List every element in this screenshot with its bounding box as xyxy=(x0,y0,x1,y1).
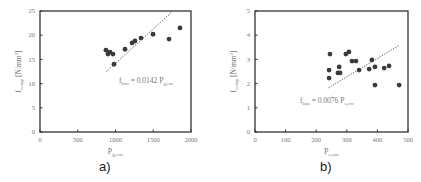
data-point xyxy=(387,64,392,69)
y-tick-label: 20 xyxy=(29,31,36,38)
data-point xyxy=(139,36,144,41)
data-point xyxy=(111,52,116,57)
data-point xyxy=(337,65,342,70)
y-tick-label: 0 xyxy=(247,128,250,135)
y-tick-label: 4 xyxy=(247,31,251,38)
data-point xyxy=(328,52,333,57)
data-point xyxy=(354,59,359,64)
data-point xyxy=(327,68,332,73)
data-point xyxy=(347,49,352,54)
data-point xyxy=(327,76,332,81)
panel-caption-b: b) xyxy=(320,159,332,174)
data-point xyxy=(123,47,128,52)
data-point xyxy=(367,67,372,72)
x-tick-label: 0 xyxy=(38,136,41,143)
data-point xyxy=(106,52,111,57)
scatter-plot-a: 05001000150020000510152025Pg,envfcomp [N… xyxy=(0,0,210,182)
data-point xyxy=(167,37,172,42)
data-point xyxy=(397,83,402,88)
x-axis-label: Pg,env xyxy=(108,147,124,158)
data-point xyxy=(357,68,362,73)
data-point xyxy=(133,39,138,44)
x-axis-label: Ps,env xyxy=(324,147,339,158)
y-tick-label: 15 xyxy=(29,56,36,63)
y-tick-label: 3 xyxy=(247,56,250,63)
trend-equation: fbias = 0.0076 Ps,env xyxy=(300,96,355,107)
scatter-plot-b: 0100200300400500012345Ps,envfcomp [N/mm2… xyxy=(210,0,421,182)
y-axis-label: fcomp [N/mm2] xyxy=(229,50,239,92)
x-tick-label: 200 xyxy=(311,136,321,143)
x-tick-label: 500 xyxy=(403,136,413,143)
trend-line xyxy=(106,11,172,71)
y-tick-label: 0 xyxy=(32,128,35,135)
y-tick-label: 1 xyxy=(247,104,250,111)
y-tick-label: 10 xyxy=(29,80,36,87)
panel-caption-a: a) xyxy=(99,159,111,174)
x-tick-label: 1500 xyxy=(147,136,160,143)
data-point xyxy=(178,26,183,31)
x-tick-label: 2000 xyxy=(185,136,198,143)
y-tick-label: 5 xyxy=(32,104,35,111)
y-axis-label: fcomp [N/mm2] xyxy=(14,50,24,92)
plot-frame xyxy=(40,11,191,132)
y-tick-label: 25 xyxy=(29,7,36,14)
x-tick-label: 100 xyxy=(281,136,291,143)
x-tick-label: 300 xyxy=(342,136,352,143)
data-point xyxy=(112,62,117,67)
chart-panel-a: 05001000150020000510152025Pg,envfcomp [N… xyxy=(0,0,210,182)
trend-equation: fbias = 0.0142 Pg,env xyxy=(119,76,174,87)
data-point xyxy=(338,71,343,76)
data-point xyxy=(369,57,374,62)
y-tick-label: 2 xyxy=(247,80,250,87)
data-point xyxy=(373,83,378,88)
data-point xyxy=(382,66,387,71)
y-tick-label: 5 xyxy=(247,7,250,14)
x-tick-label: 0 xyxy=(253,136,256,143)
plot-frame xyxy=(255,11,408,132)
data-point xyxy=(373,65,378,70)
x-tick-label: 500 xyxy=(73,136,83,143)
data-point xyxy=(151,32,156,37)
chart-panel-b: 0100200300400500012345Ps,envfcomp [N/mm2… xyxy=(210,0,421,182)
x-tick-label: 400 xyxy=(373,136,383,143)
x-tick-label: 1000 xyxy=(109,136,122,143)
